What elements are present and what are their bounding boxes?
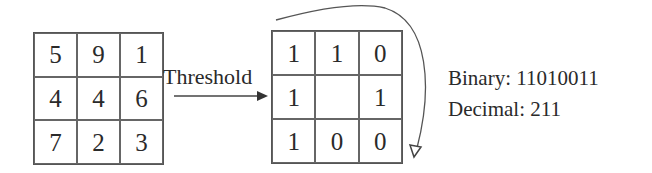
input-cell: 4	[34, 77, 77, 121]
binary-result-text: Binary: 11010011	[448, 66, 599, 91]
input-center-cell: 4	[77, 77, 120, 121]
input-cell: 3	[120, 120, 163, 164]
input-cell: 6	[120, 77, 163, 121]
input-cell: 1	[120, 33, 163, 77]
decimal-result-text: Decimal: 211	[448, 97, 561, 122]
binary-cell: 1	[272, 31, 315, 75]
binary-cell: 0	[359, 31, 402, 75]
binary-cell: 0	[359, 119, 402, 163]
input-cell: 5	[34, 33, 77, 77]
input-cell: 7	[34, 120, 77, 164]
binary-cell: 0	[315, 119, 358, 163]
threshold-arrow-icon	[174, 91, 268, 101]
binary-cell: 1	[315, 31, 358, 75]
threshold-label: Threshold	[163, 64, 252, 90]
input-cell: 2	[77, 120, 120, 164]
binary-cell: 1	[359, 75, 402, 119]
input-pixel-grid: 5 9 1 4 4 6 7 2 3	[33, 32, 164, 165]
binary-cell: 1	[272, 119, 315, 163]
binary-pattern-grid: 1 1 0 1 1 1 0 0	[271, 30, 403, 164]
binary-cell: 1	[272, 75, 315, 119]
input-cell: 9	[77, 33, 120, 77]
binary-center-cell	[315, 75, 358, 119]
